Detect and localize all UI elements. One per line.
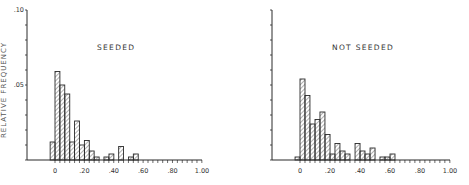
x-tick-label: .20	[325, 167, 335, 175]
y-tick-label: .05	[14, 81, 24, 89]
x-tick-label: .80	[415, 167, 425, 175]
histogram-bar	[365, 154, 370, 160]
histogram-bar	[370, 148, 375, 160]
chart-title-not-seeded: NOT SEEDED	[332, 43, 394, 52]
histogram-bar	[340, 151, 345, 160]
histogram-bar	[300, 79, 305, 160]
histogram-bar	[70, 142, 75, 160]
histogram-bar	[75, 121, 80, 160]
x-tick-label: .60	[138, 167, 148, 175]
y-axis-label: RELATIVE FREQUENCY	[0, 20, 10, 160]
chart-seeded: RELATIVE FREQUENCY SEEDED .10.050.20.40.…	[0, 0, 240, 185]
histogram-bar	[345, 154, 350, 160]
y-axis-label-text: RELATIVE FREQUENCY	[0, 42, 8, 138]
histogram-bar	[55, 72, 60, 161]
histogram-bar	[315, 120, 320, 161]
histogram-bar	[84, 141, 89, 161]
chart-title-seeded: SEEDED	[97, 43, 135, 52]
histogram-bar	[330, 154, 335, 160]
x-tick-label: .40	[355, 167, 365, 175]
x-tick-label: .60	[385, 167, 395, 175]
histogram-bar	[335, 144, 340, 161]
x-tick-label: 1.00	[443, 167, 457, 175]
histogram-bar	[390, 154, 395, 160]
x-tick-label: 0	[298, 167, 302, 175]
x-tick-label: 1.00	[195, 167, 209, 175]
histogram-bar	[310, 124, 315, 160]
histogram-bar	[65, 94, 70, 160]
histogram-bar	[80, 145, 85, 160]
histogram-seeded: .10.050.20.40.60.801.00	[0, 0, 240, 185]
histogram-bar	[305, 96, 310, 161]
histogram-bar	[119, 147, 124, 161]
x-tick-label: 0	[53, 167, 57, 175]
histogram-bar	[50, 142, 55, 160]
histogram-bar	[355, 144, 360, 161]
x-tick-label: .20	[79, 167, 89, 175]
chart-not-seeded: NOT SEEDED 0.20.40.60.801.00	[240, 0, 469, 185]
histogram-bar	[325, 135, 330, 161]
y-tick-label: .10	[14, 6, 24, 14]
histogram-bar	[360, 151, 365, 160]
x-tick-label: .80	[167, 167, 177, 175]
histogram-bar	[109, 154, 114, 160]
histogram-bar	[133, 154, 138, 160]
x-tick-label: .40	[109, 167, 119, 175]
histogram-bar	[320, 112, 325, 160]
histogram-bar	[60, 85, 65, 160]
histogram-not-seeded: 0.20.40.60.801.00	[240, 0, 469, 185]
histogram-bar	[89, 151, 94, 160]
